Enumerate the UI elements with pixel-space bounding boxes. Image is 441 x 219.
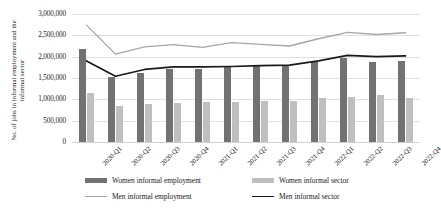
legend-label: Men informal sector [279,192,339,201]
x-axis-tick-label: 2020-Q2 [129,145,151,167]
legend-label: Women informal sector [279,176,349,185]
legend-item: Women informal employment [85,176,201,185]
x-axis-tick-label: 2022-Q2 [361,145,383,167]
x-axis-tick-label: 2020-Q4 [187,145,209,167]
y-axis-tick-label: 0 [63,138,67,146]
y-axis-tick-label: 3,000,000 [38,10,66,18]
legend-bar-swatch [252,178,274,183]
y-axis-tick-label: 500,000 [43,117,66,125]
y-axis-tick-label: 1,000,000 [38,95,66,103]
plot-area [72,14,420,142]
legend-bar-swatch [85,178,107,183]
chart-legend: Women informal employmentWomen informal … [0,174,428,214]
legend-item: Men informal employment [85,192,192,201]
y-axis-tick-label: 1,500,000 [38,74,66,82]
x-axis-tick-label: 2022-Q4 [419,145,441,167]
x-axis-tick-label: 2020-Q3 [158,145,180,167]
legend-line-swatch [85,196,107,197]
x-axis-tick-label: 2021-Q4 [303,145,325,167]
legend-item: Men informal sector [252,192,339,201]
y-axis-tick-label: 2,000,000 [38,53,66,61]
legend-item: Women informal sector [252,176,349,185]
line-series-layer [72,14,420,142]
y-axis-tick-label: 2,500,000 [38,31,66,39]
x-axis-tick-label: 2021-Q1 [216,145,238,167]
x-axis-tick-label: 2021-Q3 [274,145,296,167]
x-axis-tick-label: 2022-Q1 [332,145,354,167]
x-axis-tick-label: 2021-Q2 [245,145,267,167]
legend-line-swatch [252,196,274,197]
x-axis-tick-label: 2022-Q3 [390,145,412,167]
legend-label: Men informal employment [112,192,192,201]
line-series [87,55,406,76]
line-series [87,25,406,54]
legend-label: Women informal employment [112,176,201,185]
x-axis-tick-label: 2020-Q1 [100,145,122,167]
gridline [72,142,420,143]
